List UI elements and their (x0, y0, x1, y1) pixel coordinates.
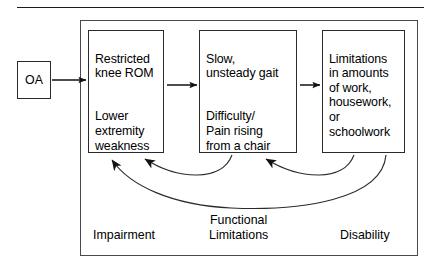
node-disability: Limitations in amounts of work, housewor… (322, 30, 405, 153)
node-functional-line-2: Difficulty/ Pain rising from a chair (206, 109, 296, 153)
diagram-canvas: OA Restricted knee ROM Lower extremity w… (0, 0, 434, 271)
node-functional-line-1: Slow, unsteady gait (206, 52, 296, 81)
stage-label-disability: Disability (340, 228, 390, 243)
node-oa: OA (17, 61, 51, 99)
node-disability-line-1: Limitations in amounts of work, housewor… (329, 52, 404, 140)
node-oa-label: OA (25, 73, 43, 87)
node-impairment-line-1: Restricted knee ROM (95, 52, 163, 81)
node-impairment: Restricted knee ROM Lower extremity weak… (88, 30, 164, 153)
top-rule-divider (17, 7, 424, 8)
node-impairment-line-2: Lower extremity weakness (95, 109, 163, 153)
stage-label-functional-limitations: Functional Limitations (209, 213, 268, 242)
stage-label-impairment: Impairment (93, 228, 155, 243)
node-functional-limitations: Slow, unsteady gait Difficulty/ Pain ris… (199, 30, 297, 153)
